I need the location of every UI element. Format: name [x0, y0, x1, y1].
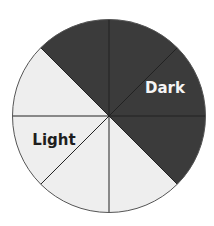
- label-light: Light: [32, 131, 75, 149]
- pie-chart: Dark Light: [0, 0, 214, 226]
- pie-dividers: [13, 20, 206, 213]
- label-dark: Dark: [145, 79, 186, 97]
